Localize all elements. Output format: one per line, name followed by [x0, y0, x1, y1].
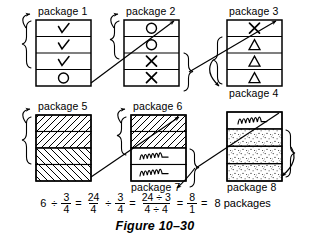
fraction-denominator: 4 — [61, 203, 71, 215]
equation-result-text: 8 packages — [212, 197, 271, 209]
figure-container: package 1 package 2 package 3 package 4 … — [0, 0, 310, 241]
label-package-4: package 4 — [229, 88, 278, 99]
fraction-2: 34 — [61, 192, 71, 214]
fraction-numerator: 24 — [86, 192, 102, 203]
equation: 6÷34=244÷34=24 ÷ 34 ÷ 4=81=8 packages — [0, 192, 310, 214]
fraction-10: 81 — [187, 192, 197, 214]
label-package-2: package 2 — [126, 6, 175, 17]
package-5-box — [36, 115, 91, 181]
fraction-denominator: 4 ÷ 4 — [143, 203, 170, 215]
fraction-8: 24 ÷ 34 ÷ 4 — [140, 192, 173, 214]
package-3-box — [227, 20, 282, 86]
equation-operator: = — [200, 197, 208, 209]
figure-caption: Figure 10–30 — [0, 219, 310, 233]
label-package-1: package 1 — [38, 6, 87, 17]
fraction-numerator: 3 — [61, 192, 71, 203]
brace-package-3 — [213, 37, 222, 84]
label-package-5: package 5 — [38, 101, 87, 112]
fraction-denominator: 4 — [89, 203, 99, 215]
fraction-numerator: 8 — [187, 192, 197, 203]
fraction-6: 34 — [115, 192, 125, 214]
equation-operator: ÷ — [104, 197, 112, 209]
package-8-box — [227, 112, 282, 181]
fraction-numerator: 24 ÷ 3 — [140, 192, 173, 203]
equation-operator: = — [176, 197, 184, 209]
label-package-6: package 6 — [133, 101, 182, 112]
equation-number: 6 — [39, 197, 47, 209]
equation-operator: = — [128, 197, 136, 209]
fraction-4: 244 — [86, 192, 102, 214]
equation-operator: = — [74, 197, 82, 209]
brace-package-1 — [22, 21, 31, 68]
brace-package-5 — [22, 117, 31, 164]
brace-package-6 — [117, 117, 126, 155]
brace-package-2-right — [184, 53, 193, 91]
label-package-3: package 3 — [229, 6, 278, 17]
fraction-denominator: 1 — [187, 203, 197, 215]
package-2-box — [124, 20, 179, 86]
fraction-numerator: 3 — [115, 192, 125, 203]
brace-package-2-left — [110, 21, 119, 59]
package-6-box — [131, 115, 186, 181]
equation-operator: ÷ — [50, 197, 58, 209]
fraction-denominator: 4 — [115, 203, 125, 215]
